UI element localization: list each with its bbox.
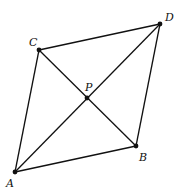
- label-c: C: [29, 36, 38, 49]
- segment-db: [136, 24, 160, 146]
- segment-ac: [15, 50, 39, 172]
- parallelogram-diagram: A B C D P: [0, 0, 180, 190]
- point-a: [13, 170, 18, 175]
- point-d: [158, 22, 163, 27]
- point-p: [85, 96, 90, 101]
- label-a: A: [5, 177, 14, 190]
- segment-cd: [39, 24, 160, 50]
- segment-ba: [15, 146, 136, 172]
- point-b: [134, 144, 139, 149]
- label-p: P: [84, 81, 93, 94]
- label-b: B: [138, 151, 147, 164]
- label-d: D: [164, 11, 174, 24]
